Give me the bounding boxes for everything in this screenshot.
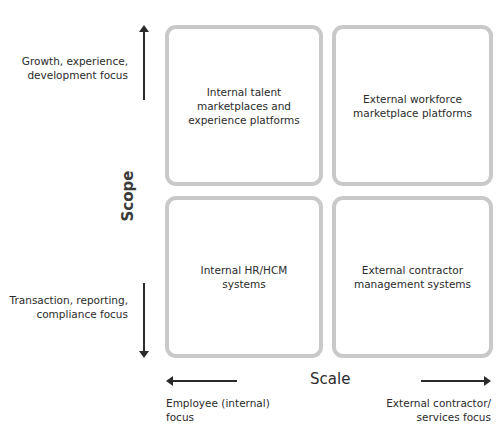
arrow-down-icon (139, 351, 149, 358)
x-axis-right-label: External contractor/ services focus (386, 396, 491, 424)
x-axis-left-label: Employee (internal) focus (166, 396, 270, 424)
quadrant-top-right-label: External workforce marketplace platforms (353, 92, 472, 120)
x-axis-title: Scale (310, 370, 350, 388)
y-axis-top-label: Growth, experience, development focus (0, 54, 128, 82)
quadrant-bottom-left: Internal HR/HCM systems (165, 196, 323, 358)
arrow-left-shaft (172, 380, 237, 382)
y-axis-title: Scope (119, 171, 137, 222)
quadrant-top-left: Internal talent marketplaces and experie… (165, 25, 323, 186)
quadrant-bottom-right: External contractor management systems (332, 196, 493, 358)
quadrant-bottom-right-label: External contractor management systems (354, 263, 471, 291)
quadrant-bottom-left-label: Internal HR/HCM systems (201, 263, 288, 291)
arrow-right-icon (484, 376, 491, 386)
arrow-down-shaft (143, 283, 145, 353)
quadrant-top-right: External workforce marketplace platforms (332, 25, 493, 186)
y-axis-bottom-label: Transaction, reporting, compliance focus (0, 293, 128, 321)
arrow-up-shaft (143, 30, 145, 100)
quadrant-top-left-label: Internal talent marketplaces and experie… (188, 85, 300, 127)
arrow-right-shaft (421, 380, 485, 382)
